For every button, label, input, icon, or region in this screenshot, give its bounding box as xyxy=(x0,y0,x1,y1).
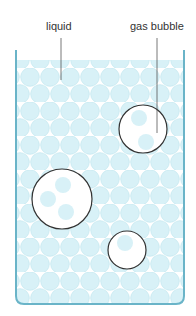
diagram-canvas xyxy=(0,0,196,316)
gas-bubble-small xyxy=(108,231,146,269)
gas-bubble-label: gas bubble xyxy=(130,20,184,32)
gas-bubble-upper xyxy=(119,105,167,153)
gas-bubble-large xyxy=(32,169,92,229)
liquid-label: liquid xyxy=(46,20,72,32)
